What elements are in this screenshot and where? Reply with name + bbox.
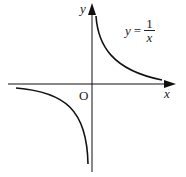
- equation-label: y = 1 x: [125, 17, 155, 44]
- curve-branch-negative: [16, 88, 88, 164]
- y-axis-arrow-icon: [88, 3, 96, 15]
- equation-fraction: 1 x: [144, 17, 155, 44]
- x-axis-label: x: [164, 86, 170, 102]
- equation-denominator: x: [146, 31, 152, 44]
- equation-numerator: 1: [144, 17, 155, 31]
- equation-lhs: y: [125, 23, 131, 39]
- origin-label: O: [79, 88, 88, 104]
- y-axis-label: y: [80, 1, 86, 17]
- equation-equals: =: [134, 23, 141, 39]
- hyperbola-graph: [0, 0, 186, 177]
